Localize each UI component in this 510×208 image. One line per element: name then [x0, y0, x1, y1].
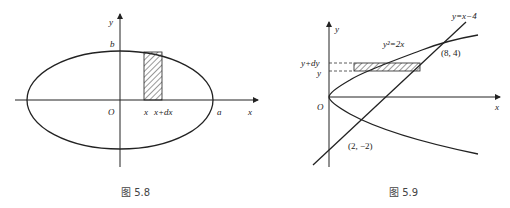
figures-canvas: y b O x x+dx a x 图 5.8 y y=x−4 y²=2x (8,…	[0, 0, 510, 208]
strip-left-label: x	[143, 107, 148, 117]
x-axis-label: x	[247, 107, 252, 117]
figure-5-9: y y=x−4 y²=2x (8, 4) y+dy y O x (2, −2) …	[300, 11, 500, 198]
y-axis-label: y	[108, 17, 113, 27]
parabola-label: y²=2x	[382, 39, 404, 49]
origin-label: O	[108, 107, 115, 117]
figure-caption: 图 5.9	[389, 187, 418, 198]
b-label: b	[110, 39, 115, 49]
point-lower-label: (2, −2)	[348, 141, 373, 151]
figure-caption: 图 5.8	[121, 187, 150, 198]
strip-right-label: x+dx	[153, 107, 173, 117]
y-plus-dy-label: y+dy	[300, 58, 320, 68]
y-axis-label: y	[334, 24, 339, 34]
y-label: y	[316, 68, 321, 78]
area-strip	[354, 63, 420, 71]
figure-5-8: y b O x x+dx a x 图 5.8	[15, 14, 258, 198]
area-strip	[144, 52, 162, 100]
origin-label: O	[317, 102, 324, 112]
line-label: y=x−4	[451, 11, 477, 21]
a-label: a	[217, 107, 222, 117]
point-upper-label: (8, 4)	[441, 48, 461, 58]
x-axis-label: x	[494, 102, 499, 112]
